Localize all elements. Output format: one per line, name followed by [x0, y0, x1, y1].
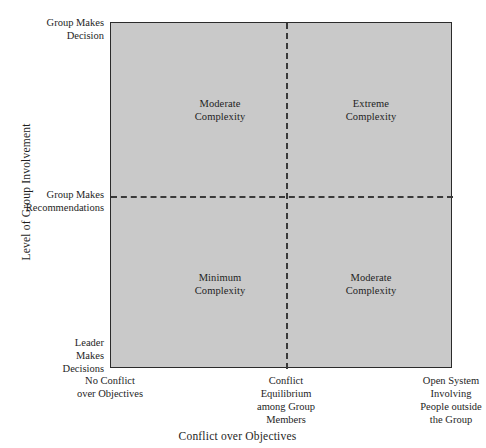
- y-axis-tick-leader-makes-decisions: Leader Makes Decisions: [18, 336, 104, 375]
- x-axis-tick-conflict-equilibrium: Conflict Equilibrium among Group Members: [231, 374, 341, 427]
- quadrant-label-bottom-right: Moderate Complexity: [301, 271, 441, 298]
- quadrant-label-bottom-left: Minimum Complexity: [155, 271, 285, 298]
- x-axis-tick-open-system: Open System Involving People outside the…: [392, 374, 486, 427]
- x-axis-title: Conflict over Objectives: [0, 430, 475, 442]
- quadrant-label-top-right: Extreme Complexity: [301, 97, 441, 124]
- vertical-divider-line: [286, 23, 288, 369]
- plot-area: Moderate Complexity Extreme Complexity M…: [110, 22, 452, 368]
- horizontal-divider-line: [111, 196, 453, 198]
- quadrant-label-top-left: Moderate Complexity: [155, 97, 285, 124]
- x-axis-tick-no-conflict: No Conflict over Objectives: [55, 374, 165, 400]
- y-axis-tick-group-makes-decision: Group Makes Decision: [18, 16, 104, 42]
- y-axis-tick-group-makes-recommendations: Group Makes Recommendations: [8, 188, 104, 214]
